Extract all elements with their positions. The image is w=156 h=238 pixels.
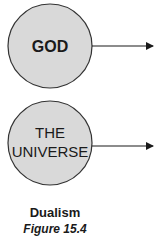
node-universe-label-line2: UNIVERSE [12, 143, 89, 160]
dualism-diagram: GOD THE UNIVERSE [0, 0, 156, 238]
node-universe: THE UNIVERSE [8, 101, 92, 185]
node-god: GOD [8, 4, 92, 88]
node-universe-label-line1: THE [35, 124, 65, 141]
figure-number: Figure 15.4 [0, 222, 110, 236]
caption-title: Dualism [0, 205, 110, 220]
node-god-label: GOD [32, 38, 68, 55]
